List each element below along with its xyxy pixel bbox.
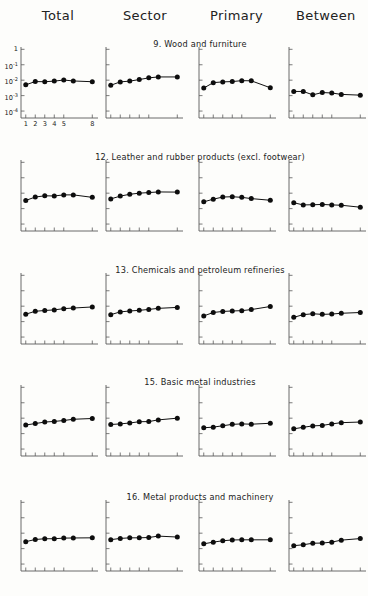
data-point [301, 202, 306, 207]
data-point [137, 419, 142, 424]
data-point [239, 537, 244, 542]
data-point [230, 194, 235, 199]
data-point [310, 311, 315, 316]
data-point [230, 537, 235, 542]
data-point [33, 309, 38, 314]
data-point [249, 537, 254, 542]
data-point [71, 192, 76, 197]
panel-svg [288, 160, 368, 233]
figure-root: TotalSectorPrimaryBetween110-110-210-310… [0, 0, 368, 596]
data-point [108, 83, 113, 88]
data-point [108, 422, 113, 427]
data-point [118, 309, 123, 314]
column-header-total: Total [32, 8, 84, 23]
y-axis-label-4: 10-4 [0, 107, 18, 117]
data-point [146, 535, 151, 540]
data-point [249, 422, 254, 427]
data-point [211, 540, 216, 545]
data-point [71, 417, 76, 422]
panel-svg [198, 385, 278, 458]
plot-panel [198, 47, 276, 118]
data-point [291, 426, 296, 431]
data-point [90, 304, 95, 309]
data-point [42, 536, 47, 541]
data-point [156, 74, 161, 79]
data-point [61, 536, 66, 541]
data-point [71, 78, 76, 83]
data-point [310, 423, 315, 428]
data-point [268, 537, 273, 542]
data-point [220, 538, 225, 543]
data-point [320, 90, 325, 95]
panel-svg [198, 273, 278, 346]
data-point [310, 92, 315, 97]
data-point [146, 75, 151, 80]
data-point [52, 79, 57, 84]
data-point [42, 308, 47, 313]
data-point [201, 199, 206, 204]
data-point [156, 417, 161, 422]
data-point [291, 543, 296, 548]
plot-panel [20, 500, 98, 571]
panel-svg [198, 500, 278, 573]
data-point [23, 539, 28, 544]
data-point [329, 421, 334, 426]
data-point [118, 194, 123, 199]
data-point [90, 416, 95, 421]
data-point [301, 425, 306, 430]
data-point [239, 195, 244, 200]
data-point [211, 310, 216, 315]
plot-panel [198, 385, 276, 456]
data-point [71, 306, 76, 311]
plot-panel [198, 273, 276, 344]
data-point [268, 421, 273, 426]
column-header-between: Between [296, 8, 348, 23]
data-point [220, 79, 225, 84]
plot-panel [288, 47, 366, 118]
column-header-primary: Primary [210, 8, 262, 23]
data-point [230, 308, 235, 313]
plot-panel [105, 160, 183, 231]
data-point [156, 306, 161, 311]
plot-panel [198, 500, 276, 571]
data-point [320, 541, 325, 546]
data-point [339, 420, 344, 425]
data-point [249, 307, 254, 312]
y-axis-label-1: 10-1 [0, 61, 18, 71]
data-point [146, 419, 151, 424]
data-point [23, 82, 28, 87]
plot-panel [288, 160, 366, 231]
data-point [268, 304, 273, 309]
data-point [301, 542, 306, 547]
data-point [358, 536, 363, 541]
panel-svg [20, 273, 100, 346]
data-point [61, 418, 66, 423]
data-point [329, 540, 334, 545]
data-point [358, 205, 363, 210]
data-point [220, 309, 225, 314]
panel-svg [288, 500, 368, 573]
data-point [339, 538, 344, 543]
x-axis-label-5: 8 [87, 120, 97, 128]
plot-panel [105, 47, 183, 118]
data-point [42, 420, 47, 425]
plot-panel [288, 500, 366, 571]
data-point [23, 198, 28, 203]
data-point [118, 421, 123, 426]
data-point [137, 308, 142, 313]
data-point [249, 196, 254, 201]
panel-svg [105, 47, 185, 120]
data-point [42, 79, 47, 84]
data-point [211, 197, 216, 202]
panel-svg [198, 47, 278, 120]
data-point [339, 203, 344, 208]
panel-svg [105, 385, 185, 458]
data-point [33, 195, 38, 200]
panel-svg [105, 160, 185, 233]
data-point [201, 541, 206, 546]
panel-svg [288, 273, 368, 346]
data-point [220, 423, 225, 428]
data-point [201, 425, 206, 430]
x-axis-label-0: 1 [21, 120, 31, 128]
data-point [358, 420, 363, 425]
